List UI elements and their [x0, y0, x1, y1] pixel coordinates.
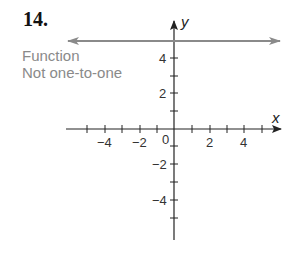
- origin-label: 0: [162, 132, 169, 147]
- x-tick-label-neg2: −2: [132, 135, 147, 150]
- y-axis-label: y: [180, 13, 190, 30]
- y-tick-label-neg4: −4: [152, 193, 167, 208]
- y-tick-label-2: 2: [159, 86, 166, 101]
- x-tick-label-2: 2: [206, 135, 213, 150]
- x-tick-label-4: 4: [240, 135, 247, 150]
- y-tick-label-4: 4: [159, 51, 166, 66]
- x-axis-label: x: [271, 109, 280, 126]
- y-tick-label-neg2: −2: [152, 157, 167, 172]
- x-tick-label-neg4: −4: [97, 135, 112, 150]
- coordinate-graph: x y −4 −2 0 2 4 4 2 −2 −4: [0, 0, 297, 253]
